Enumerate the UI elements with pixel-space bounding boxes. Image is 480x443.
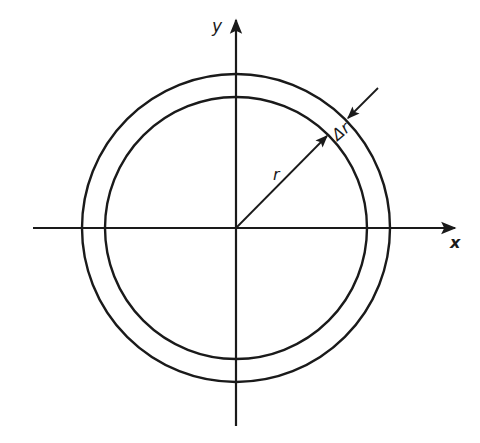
radius-label: r xyxy=(273,165,281,184)
delta-r-arrow xyxy=(348,88,378,118)
diagram-canvas: y x r Δr xyxy=(0,0,480,443)
radius-arrow xyxy=(236,136,327,228)
delta-r-label: Δr xyxy=(326,117,354,145)
y-axis-label: y xyxy=(211,16,223,36)
x-axis-label: x xyxy=(449,233,461,252)
annulus-diagram: y x r Δr xyxy=(0,0,480,443)
